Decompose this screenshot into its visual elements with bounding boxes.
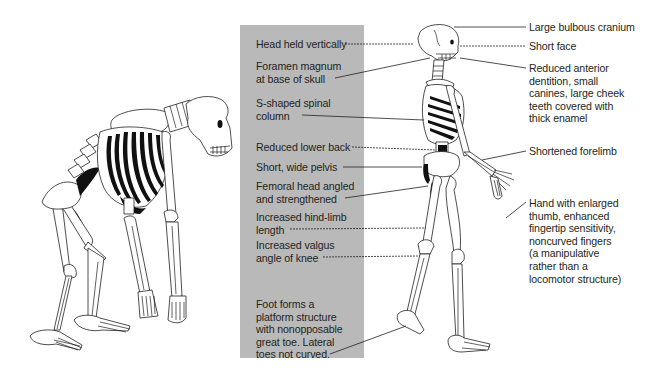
label-hand: Hand with enlarged thumb, enhanced finge…: [529, 197, 621, 285]
ape-skull: [186, 97, 232, 156]
human-skull: [418, 25, 459, 61]
label-shortened-forelimb: Shortened forelimb: [529, 145, 617, 158]
label-short-wide-pelvis: Short, wide pelvis: [256, 161, 337, 174]
human-hand: [490, 170, 514, 199]
label-reduced-lower-back: Reduced lower back: [256, 141, 350, 154]
label-bulbous-cranium: Large bulbous cranium: [529, 21, 635, 34]
label-foramen-magnum: Foramen magnum at base of skull: [256, 60, 341, 85]
label-s-shaped-spine: S-shaped spinal column: [256, 97, 330, 122]
ape-skeleton: [30, 97, 232, 350]
skeleton-comparison-diagram: Head held vertically Foramen magnum at b…: [0, 0, 647, 377]
label-reduced-dentition: Reduced anterior dentition, small canine…: [529, 62, 624, 125]
label-foot-platform: Foot forms a platform structure with non…: [256, 298, 343, 361]
label-hind-limb-length: Increased hind-limb length: [256, 211, 347, 236]
label-head-held-vertically: Head held vertically: [256, 38, 346, 51]
label-femoral-head: Femoral head angled and strengthened: [256, 180, 354, 205]
label-short-face: Short face: [529, 40, 576, 53]
label-valgus-angle: Increased valgus angle of knee: [256, 239, 335, 264]
